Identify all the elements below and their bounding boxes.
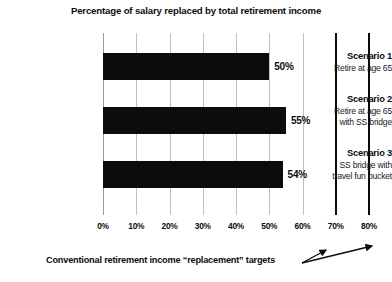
scenario-description-line-1: Retire at age 65 [296,63,392,75]
x-tick-label-2: 20% [162,221,178,231]
x-tick-label-7: 70% [328,221,344,231]
chart-title: Percentage of salary replaced by total r… [0,5,392,16]
annotation-arrows-icon [300,241,392,267]
scenario-description-line-2: with SS bridge [296,117,392,129]
x-tick-label-0: 0% [97,221,109,231]
value-label-scenario-3: 54% [288,169,307,180]
value-label-scenario-1: 50% [274,61,293,72]
category-label-scenario-3: Scenario 3SS bridge withtravel fun bucke… [296,148,392,183]
x-tick-label-8: 80% [361,221,377,231]
scenario-description-line-2: travel fun bucket [296,171,392,183]
x-tick-label-4: 40% [228,221,244,231]
scenario-name: Scenario 3 [296,148,392,160]
bar-scenario-1 [103,53,269,80]
annotation-caption: Conventional retirement income “replacem… [46,255,275,265]
x-tick-label-3: 30% [195,221,211,231]
scenario-name: Scenario 2 [296,94,392,106]
category-label-scenario-2: Scenario 2Retire at age 65with SS bridge [296,94,392,129]
scenario-description-line-1: Retire at age 65 [296,106,392,118]
value-label-scenario-2: 55% [291,115,310,126]
scenario-description-line-1: SS bridge with [296,160,392,172]
x-tick-label-5: 50% [261,221,277,231]
x-axis-tick-labels: 0%10%20%30%40%50%60%70%80% [103,221,369,235]
category-label-scenario-1: Scenario 1Retire at age 65 [296,51,392,74]
bar-scenario-2 [103,107,286,134]
x-tick-label-1: 10% [128,221,144,231]
x-tick-label-6: 60% [295,221,311,231]
scenario-name: Scenario 1 [296,51,392,63]
retirement-income-bar-chart: Percentage of salary replaced by total r… [0,0,392,282]
bar-scenario-3 [103,161,283,188]
